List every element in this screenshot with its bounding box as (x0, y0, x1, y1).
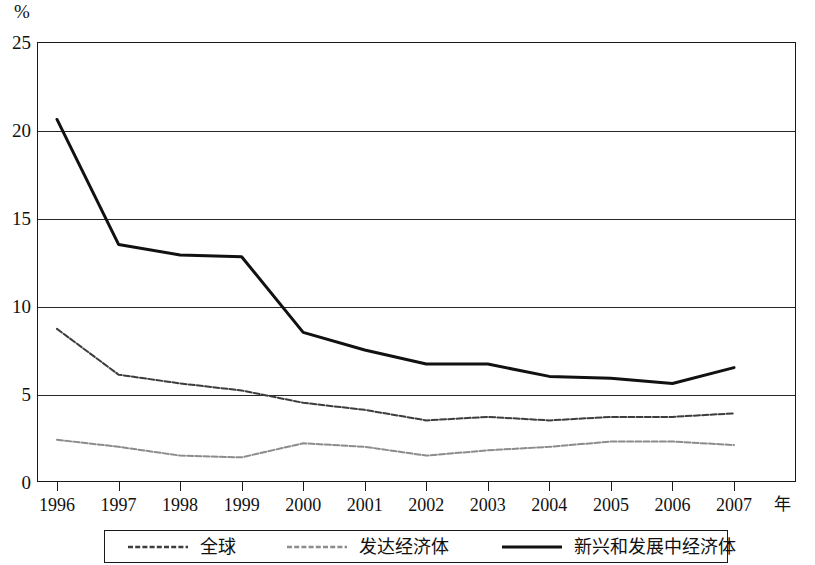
y-axis-tick-labels: 2520151050 (0, 42, 31, 482)
y-axis-tick-label: 20 (0, 121, 31, 140)
x-axis-tick-label: 1998 (145, 494, 215, 516)
x-axis-unit-label: 年 (774, 494, 791, 516)
legend-swatch-icon (127, 541, 189, 553)
x-axis-tick-label: 2004 (514, 494, 584, 516)
x-axis-tick-label: 1997 (84, 494, 154, 516)
x-axis-tick-label: 2006 (637, 494, 707, 516)
y-axis-tick-label: 0 (0, 473, 31, 492)
legend-label: 发达经济体 (359, 538, 449, 556)
x-axis-tick (365, 482, 366, 491)
legend-item: 发达经济体 (286, 531, 449, 562)
x-axis-tick (57, 482, 58, 491)
series-line (57, 119, 734, 383)
x-axis-tick-label: 2002 (391, 494, 461, 516)
x-axis-tick (672, 482, 673, 491)
x-axis-tick (242, 482, 243, 491)
x-axis-tick (119, 482, 120, 491)
series-line (57, 329, 734, 421)
legend-label: 全球 (200, 538, 236, 556)
x-axis-tick-label: 2003 (453, 494, 523, 516)
legend-item: 新兴和发展中经济体 (501, 531, 736, 562)
y-axis-tick-label: 10 (0, 297, 31, 316)
x-axis-tick-label: 2000 (268, 494, 338, 516)
series-layer (37, 42, 796, 482)
x-axis-tick (180, 482, 181, 491)
legend-swatch-icon (286, 541, 348, 553)
x-axis-tick (488, 482, 489, 491)
x-axis-tick (734, 482, 735, 491)
x-axis-tick-label: 1999 (207, 494, 277, 516)
chart-legend: 全球发达经济体新兴和发展中经济体 (104, 530, 728, 563)
x-axis-tick-label: 2007 (699, 494, 769, 516)
x-axis-tick-label: 2005 (576, 494, 646, 516)
series-line (57, 440, 734, 458)
x-axis-tick-labels: 年 19961997199819992000200120022003200420… (0, 494, 815, 518)
y-axis-tick-label: 5 (0, 385, 31, 404)
y-axis-unit-label: % (14, 2, 30, 21)
legend-item: 全球 (127, 531, 236, 562)
legend-label: 新兴和发展中经济体 (574, 538, 736, 556)
x-axis-tick (549, 482, 550, 491)
x-axis-tick (611, 482, 612, 491)
y-axis-tick-label: 25 (0, 33, 31, 52)
x-axis-tick (303, 482, 304, 491)
y-axis-tick-label: 15 (0, 209, 31, 228)
x-axis-tick-label: 1996 (22, 494, 92, 516)
x-axis-tick (426, 482, 427, 491)
x-axis-tick-label: 2001 (330, 494, 400, 516)
x-axis-ticks (37, 482, 796, 492)
legend-swatch-icon (501, 541, 563, 553)
chart-figure: % 2520151050 年 1996199719981999200020012… (0, 0, 815, 565)
